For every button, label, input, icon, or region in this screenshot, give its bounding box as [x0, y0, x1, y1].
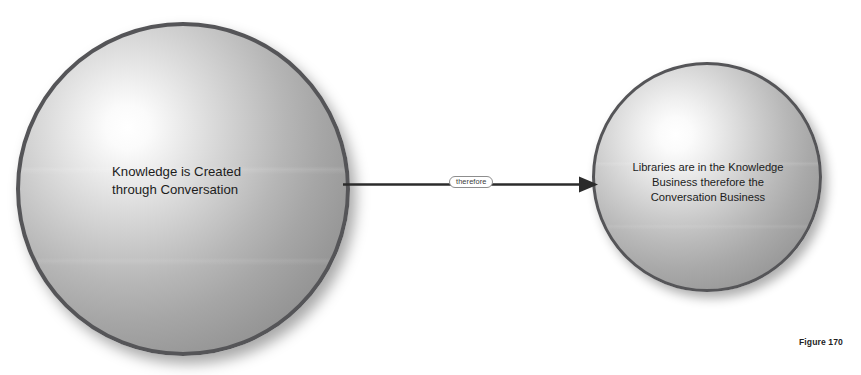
node-libraries-sphere-label: Libraries are in the Knowledge Business …: [621, 160, 795, 205]
connector-label-therefore[interactable]: therefore: [449, 176, 493, 188]
figure-caption: Figure 170: [799, 337, 843, 347]
node-knowledge-sphere-label: Knowledge is Created through Conversatio…: [112, 163, 312, 198]
figure-canvas: Knowledge is Created through Conversatio…: [0, 0, 861, 375]
